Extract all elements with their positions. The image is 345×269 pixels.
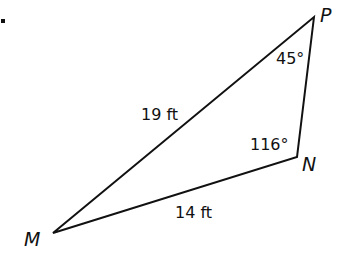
side-label-mn: 14 ft <box>175 203 212 222</box>
vertex-label-n: N <box>302 153 316 175</box>
vertex-label-p: P <box>320 4 332 26</box>
triangle-diagram: P N M 45° 116° 19 ft 14 ft <box>0 0 345 269</box>
bullet-marker <box>1 19 5 23</box>
angle-label-n: 116° <box>250 135 289 154</box>
side-label-mp: 19 ft <box>141 105 178 124</box>
vertex-label-m: M <box>24 228 40 250</box>
angle-label-p: 45° <box>276 49 304 68</box>
